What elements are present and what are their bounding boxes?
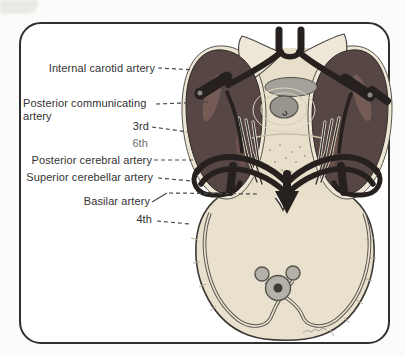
- leader-superior-cerebellar: [158, 178, 192, 181]
- label-internal-carotid-artery: Internal carotid artery: [25, 62, 155, 75]
- carotid-lumen-left: [196, 89, 204, 97]
- leader-basilar-solid: [152, 193, 167, 202]
- label-fourth-cranial-nerve: 4th: [25, 213, 152, 226]
- label-basilar-artery: Basilar artery: [25, 195, 150, 208]
- carotid-lumen-right: [366, 91, 374, 99]
- label-third-cranial-nerve: 3rd: [25, 120, 149, 133]
- label-sixth-cranial-nerve: 6th: [25, 137, 148, 150]
- lateral-recess-right: [286, 266, 300, 280]
- cerebellum: [191, 187, 376, 340]
- label-posterior-cerebral-artery: Posterior cerebral artery: [25, 154, 152, 167]
- figure-panel: Internal carotid artery Posterior commun…: [0, 0, 405, 356]
- label-superior-cerebellar-artery: Superior cerebellar artery: [25, 171, 153, 184]
- lateral-recess-left: [255, 267, 269, 281]
- leader-fourth-nerve: [157, 221, 190, 224]
- scan-artifact: [0, 0, 38, 14]
